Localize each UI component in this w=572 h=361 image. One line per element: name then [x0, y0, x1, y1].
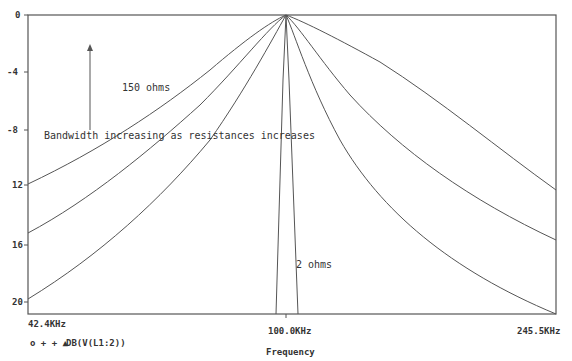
y-tick-label: 0 [15, 10, 20, 20]
legend-text: DB(V(L1:2)) [66, 338, 126, 348]
y-tick-label: 12 [12, 180, 23, 190]
curves [28, 15, 556, 314]
y-tick-label: -8 [7, 125, 18, 135]
x-tick-label-right: 245.5KHz [517, 326, 560, 336]
frequency-response-chart: 0 -4 -8 12 16 20 42.4KHz 100.0KHz 245.5K… [0, 0, 572, 361]
y-tick-label: -4 [7, 67, 18, 77]
annotation-bandwidth: Bandwidth increasing as resistances incr… [44, 130, 315, 141]
curve-2-ohms [276, 15, 298, 314]
annotation-2-ohms: 2 ohms [296, 259, 332, 270]
x-tick-label-center: 100.0KHz [268, 326, 311, 336]
x-tick-label-left: 42.4KHz [28, 319, 66, 329]
annotation-150-ohms: 150 ohms [122, 82, 170, 93]
curve-r3 [28, 15, 556, 240]
up-arrow-icon [87, 44, 93, 130]
x-axis-title: Frequency [266, 347, 315, 357]
y-tick-label: 16 [12, 240, 23, 250]
legend-markers: o + + ▲ [30, 338, 69, 348]
y-tick-label: 20 [12, 297, 23, 307]
